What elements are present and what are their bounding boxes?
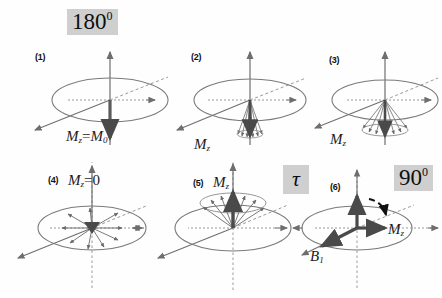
panel-2-mz-label: Mz xyxy=(194,136,210,153)
panel-6-m-subscript: z xyxy=(401,228,405,238)
nmr-magnetization-figure: (1) (2) (3) (4) (5) (6) Mz=M0 Mz Mz Mz=0… xyxy=(0,0,442,298)
panel-3-m-subscript: z xyxy=(343,138,347,148)
pulse-90-value: 90 xyxy=(399,165,422,190)
panel-5-graphics xyxy=(133,160,291,290)
pulse-180-degree: 0 xyxy=(107,9,113,23)
pulse-90-degree: 0 xyxy=(422,165,428,179)
panel-4-m-symbol: M xyxy=(68,172,81,188)
panel-1-number: (1) xyxy=(35,52,45,62)
panel-1-mz-label: Mz=M0 xyxy=(66,128,107,145)
panel-2-graphics xyxy=(177,52,306,145)
panel-4-number: (4) xyxy=(48,175,58,185)
panel-1-m-symbol: M xyxy=(66,128,79,144)
delay-tau-value: τ xyxy=(292,166,300,191)
panel-6-mz-label: Mz xyxy=(388,221,404,238)
panel-5-m-symbol: M xyxy=(213,174,226,190)
panel-6-b-symbol: B xyxy=(310,248,319,264)
panel-6-number: (6) xyxy=(330,182,340,192)
panel-3-number: (3) xyxy=(329,55,339,65)
panel-5-m-subscript: z xyxy=(226,181,230,191)
diagram-canvas xyxy=(0,0,442,298)
delay-tau-badge: τ xyxy=(283,165,309,194)
panel-5-mz-label: Mz xyxy=(213,174,229,191)
panel-1-m0-subscript: 0 xyxy=(103,135,108,145)
panel-5-number: (5) xyxy=(193,178,203,188)
panel-4-mz-label: Mz=0 xyxy=(68,172,100,189)
pulse-180-value: 180 xyxy=(72,9,107,34)
panel-2-m-symbol: M xyxy=(194,136,207,152)
panel-2-m-subscript: z xyxy=(207,143,211,153)
panel-6-m-symbol: M xyxy=(388,221,401,237)
panel-6-b1-label: B1 xyxy=(310,248,324,265)
panel-3-m-symbol: M xyxy=(330,131,343,147)
panel-3-mz-label: Mz xyxy=(330,131,346,148)
pulse-90-badge: 900 xyxy=(394,165,433,191)
panel-4-zero-value: 0 xyxy=(92,172,100,188)
panel-6-b-subscript: 1 xyxy=(319,255,324,265)
panel-1-m0-symbol: M xyxy=(90,128,103,144)
pulse-180-badge: 1800 xyxy=(67,9,118,35)
panel-2-number: (2) xyxy=(191,52,201,62)
